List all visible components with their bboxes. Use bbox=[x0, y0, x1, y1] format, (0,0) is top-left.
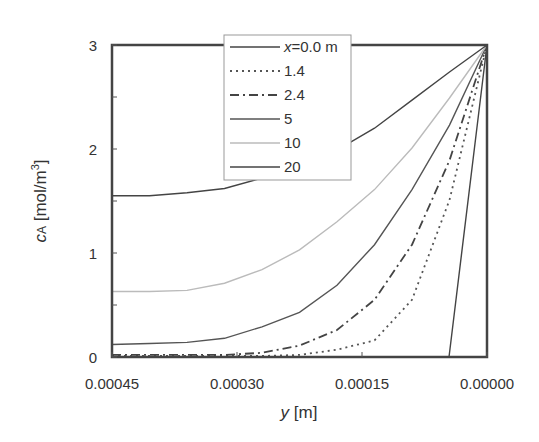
x-tick-label: 0.00030 bbox=[210, 375, 264, 392]
y-tick-label: 1 bbox=[89, 245, 97, 262]
line-chart: 0123 0.000450.000300.000150.00000 y [m] … bbox=[0, 0, 539, 442]
legend-label: 1.4 bbox=[284, 62, 305, 79]
x-tick-label: 0.00015 bbox=[335, 375, 389, 392]
y-tick-label: 0 bbox=[89, 349, 97, 366]
y-tick-label: 2 bbox=[89, 141, 97, 158]
legend-label: 20 bbox=[284, 158, 301, 175]
x-tick-label: 0.00000 bbox=[460, 375, 514, 392]
legend-label: 2.4 bbox=[284, 86, 305, 103]
legend-label: 10 bbox=[284, 134, 301, 151]
x-tick-label: 0.00045 bbox=[85, 375, 139, 392]
x-axis-title: y [m] bbox=[280, 403, 318, 422]
legend-label: x=0.0 m bbox=[283, 38, 338, 55]
y-tick-label: 3 bbox=[89, 37, 97, 54]
y-axis-title: cA [mol/m3] bbox=[29, 159, 50, 242]
legend: x=0.0 m1.42.451020 bbox=[224, 35, 351, 180]
legend-label: 5 bbox=[284, 110, 292, 127]
svg-text:cA [mol/m3]: cA [mol/m3] bbox=[29, 159, 50, 242]
